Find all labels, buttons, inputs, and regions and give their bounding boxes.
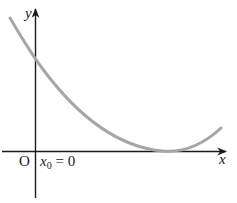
origin-label: O [19, 153, 30, 169]
x-axis-label: x [218, 151, 226, 167]
x0-annotation: x0 = 0 [39, 153, 75, 171]
y-axis-label: y [23, 5, 32, 21]
function-graph: y x O x0 = 0 [0, 0, 237, 203]
function-curve [10, 18, 221, 151]
